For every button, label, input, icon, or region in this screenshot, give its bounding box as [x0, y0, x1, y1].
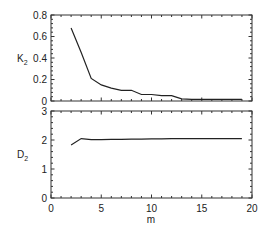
y-tick-label: 0 [41, 193, 47, 204]
y-tick-label: 0.8 [33, 10, 47, 21]
d2-ylabel: D2 [17, 149, 28, 162]
x-axis-label: m [147, 214, 155, 225]
y-tick-label: 0.6 [33, 31, 47, 42]
plot-frame [51, 15, 252, 101]
x-tick-label: 20 [246, 203, 258, 214]
k2-ylabel: K2 [17, 53, 28, 66]
plot-frame [51, 111, 252, 198]
y-tick-label: 1 [41, 164, 47, 175]
series-line-d2 [71, 139, 242, 145]
x-tick-label: 10 [146, 203, 158, 214]
k2-panel: 00.20.40.60.8 [33, 10, 252, 107]
figure: 00.20.40.60.8 012305101520 K2 D2 m [0, 0, 267, 235]
series-line-k2 [71, 28, 242, 100]
d2-panel: 012305101520 [41, 106, 258, 215]
y-tick-label: 2 [41, 135, 47, 146]
x-tick-label: 5 [98, 203, 104, 214]
y-tick-label: 3 [41, 106, 47, 117]
y-tick-label: 0.2 [33, 74, 47, 85]
x-tick-label: 0 [48, 203, 54, 214]
x-tick-label: 15 [196, 203, 208, 214]
y-tick-label: 0.4 [33, 53, 47, 64]
